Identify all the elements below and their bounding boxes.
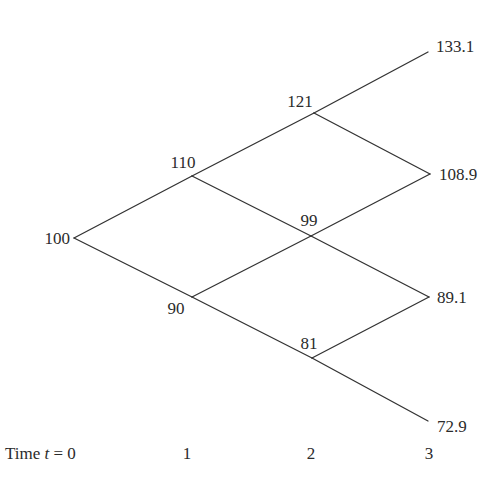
edge-81-72.9 bbox=[312, 358, 428, 421]
binomial-tree-diagram: 100 110 90 121 99 81 133.1 108.9 89.1 72… bbox=[0, 0, 502, 494]
edge-121-133.1 bbox=[314, 52, 428, 113]
edge-121-108.9 bbox=[314, 113, 430, 174]
edge-99-89.1 bbox=[311, 236, 429, 297]
time-axis-label-2: 2 bbox=[307, 444, 316, 463]
edge-100-90 bbox=[74, 238, 192, 297]
node-label-t1-up: 110 bbox=[171, 153, 196, 172]
node-label-t3-uuu: 133.1 bbox=[436, 37, 474, 56]
node-label-t2-downdown: 81 bbox=[301, 334, 318, 353]
edge-90-81 bbox=[192, 297, 312, 358]
edge-110-121 bbox=[192, 113, 314, 176]
edge-90-99 bbox=[192, 236, 311, 297]
edge-110-99 bbox=[192, 176, 311, 236]
time-axis-label-0: Time t = 0 bbox=[5, 444, 76, 463]
edge-100-110 bbox=[74, 176, 192, 238]
edge-81-89.1 bbox=[312, 297, 429, 358]
time-axis-equals-zero: = 0 bbox=[49, 444, 76, 463]
node-label-t3-uud: 108.9 bbox=[439, 165, 477, 184]
node-label-t0: 100 bbox=[45, 229, 71, 248]
time-axis-prefix: Time bbox=[5, 444, 45, 463]
time-axis-label-1: 1 bbox=[183, 444, 192, 463]
node-label-t3-udd: 89.1 bbox=[437, 288, 467, 307]
node-label-t2-upup: 121 bbox=[287, 92, 313, 111]
time-axis-label-3: 3 bbox=[425, 444, 434, 463]
node-label-t2-updown: 99 bbox=[301, 211, 318, 230]
edge-99-108.9 bbox=[311, 174, 430, 236]
node-label-t3-ddd: 72.9 bbox=[437, 417, 467, 436]
node-label-t1-down: 90 bbox=[168, 299, 185, 318]
